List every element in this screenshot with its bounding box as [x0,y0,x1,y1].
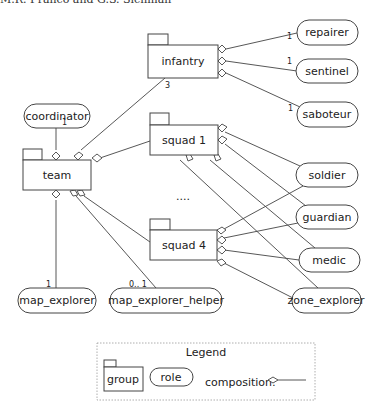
folder-tab [23,149,42,160]
line-squad4-team [84,196,150,242]
group-infantry[interactable]: infantry [148,34,218,78]
diamond-icon [217,259,226,266]
multiplicity-sentinel: 1 [287,57,292,66]
diamond-icon [217,236,226,244]
diamond-icon [52,152,60,160]
folder-tab [148,34,168,45]
role-medic[interactable]: medic [299,248,360,272]
svg-text:sentinel: sentinel [305,65,349,78]
ellipsis: .... [176,190,190,203]
legend-composition-label: composition: [205,376,276,389]
line-squad4-zone-explorer [222,262,293,298]
line-squad1-guardian [225,144,306,206]
role-repairer[interactable]: repairer [297,20,358,45]
svg-text:repairer: repairer [305,26,349,39]
role-map-explorer-helper[interactable]: map_explorer_helper [108,288,224,313]
line-team-map-explorer-helper [76,196,156,288]
multiplicity-map-explorer-helper: 0.. 1 [129,280,147,289]
diamond-icon [218,69,226,77]
legend-folder-tab [104,360,116,367]
group-label: squad 1 [162,134,206,147]
diamond-icon [218,136,227,144]
svg-text:map_explorer_helper: map_explorer_helper [108,294,224,307]
role-coordinator[interactable]: coordinator [24,104,90,128]
diamond-icon [217,227,226,234]
organization-diagram: infantry team squad 1 squad 4 .... coord… [0,0,388,420]
multiplicity-infantry-team: 3 [165,81,170,90]
line-squad4-soldier [224,186,303,229]
svg-text:saboteur: saboteur [303,108,352,121]
folder-tab [150,219,170,230]
legend-group-label: group [107,373,139,386]
line-squad1-soldier [225,132,300,166]
diamond-icon [217,246,226,254]
multiplicity-map-explorer: 1 [46,280,51,289]
diamond-icon [52,190,60,198]
diamond-icon [218,124,227,132]
svg-text:coordinator: coordinator [25,110,89,123]
group-squad-4[interactable]: squad 4 [150,219,217,260]
multiplicity-saboteur: 1 [288,104,293,113]
group-label: squad 4 [162,239,206,252]
svg-text:medic: medic [312,254,346,267]
diamond-icon [218,45,226,53]
svg-text:soldier: soldier [309,169,346,182]
svg-text:zone_explorer: zone_explorer [287,294,365,307]
multiplicity-repairer: 1 [287,32,292,41]
diamond-icon [92,154,102,162]
svg-text:guardian: guardian [303,211,352,224]
multiplicity-coordinator: 1 [62,118,67,127]
line-squad1-team [100,141,150,158]
legend-title: Legend [186,346,226,359]
role-soldier[interactable]: soldier [296,163,358,187]
diamond-icon [74,152,83,160]
role-saboteur[interactable]: saboteur [297,102,358,127]
svg-text:map_explorer: map_explorer [19,294,95,307]
folder-tab [150,113,169,125]
group-label: infantry [162,55,205,68]
line-squad4-guardian [224,223,298,238]
role-guardian[interactable]: guardian [296,205,358,229]
legend-role-label: role [161,371,182,384]
role-zone-explorer[interactable]: zone_explorer [287,288,365,313]
diamond-icon [218,57,226,65]
group-squad-1[interactable]: squad 1 [150,113,218,155]
role-map-explorer[interactable]: map_explorer [18,288,96,313]
line-squad4-medic [224,250,299,260]
group-label: team [43,169,72,182]
legend: Legend group role composition: [97,343,315,400]
line-infantry-saboteur [226,73,300,107]
role-sentinel[interactable]: sentinel [296,59,358,83]
